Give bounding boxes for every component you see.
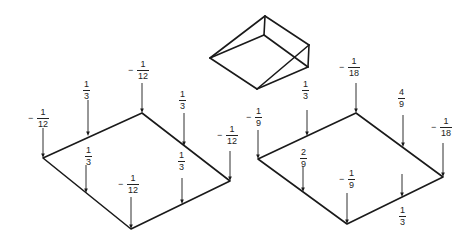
- wedge-edge: [257, 67, 308, 89]
- fraction-numerator: 1: [351, 57, 358, 66]
- minus-sign: −: [118, 180, 123, 189]
- fraction-denominator: 3: [179, 102, 186, 111]
- fraction-denominator: 3: [302, 92, 309, 101]
- wedge-edge: [308, 45, 309, 67]
- fraction-denominator: 12: [137, 72, 149, 81]
- fraction-numerator: 1: [229, 125, 236, 134]
- fraction-denominator: 3: [85, 158, 92, 167]
- fraction-numerator: 4: [398, 88, 405, 97]
- arrow-down-icon: [354, 109, 358, 114]
- fraction-denominator: 12: [37, 120, 49, 129]
- wedge-edge: [264, 16, 265, 35]
- wedge-shape: [210, 16, 309, 89]
- minus-sign: −: [217, 131, 222, 140]
- fraction-numerator: 1: [302, 80, 309, 89]
- fraction-denominator: 3: [83, 92, 90, 101]
- fraction-numerator: 1: [130, 174, 137, 183]
- minus-sign: −: [128, 66, 133, 75]
- fraction-numerator: 1: [348, 169, 355, 178]
- fraction-denominator: 18: [440, 129, 452, 138]
- wedge-edge: [210, 16, 265, 58]
- fraction-denominator: 12: [127, 186, 139, 195]
- load-arrows: [41, 83, 445, 229]
- fraction-denominator: 3: [178, 163, 185, 172]
- fraction-numerator: 1: [85, 146, 92, 155]
- fraction-numerator: 1: [179, 90, 186, 99]
- fraction-numerator: 1: [443, 117, 450, 126]
- minus-sign: −: [431, 123, 436, 132]
- left-plate-outline: [43, 113, 230, 229]
- fraction-denominator: 12: [226, 137, 238, 146]
- arrow-down-icon: [140, 109, 144, 114]
- fraction-numerator: 1: [399, 206, 406, 215]
- fraction-denominator: 18: [348, 69, 360, 78]
- fraction-denominator: 9: [255, 119, 262, 128]
- fraction-denominator: 9: [398, 100, 405, 109]
- left-plate-outline: [43, 113, 230, 229]
- minus-sign: −: [339, 175, 344, 184]
- minus-sign: −: [28, 114, 33, 123]
- fraction-numerator: 2: [300, 148, 307, 157]
- fraction-numerator: 1: [255, 107, 262, 116]
- fraction-denominator: 9: [300, 160, 307, 169]
- wedge-edge: [210, 58, 257, 89]
- minus-sign: −: [246, 113, 251, 122]
- fraction-numerator: 1: [178, 151, 185, 160]
- fraction-numerator: 1: [140, 60, 147, 69]
- fraction-denominator: 3: [399, 218, 406, 227]
- fraction-numerator: 1: [40, 108, 47, 117]
- arrow-down-icon: [86, 132, 90, 137]
- fraction-denominator: 9: [348, 181, 355, 190]
- minus-sign: −: [339, 63, 344, 72]
- fraction-numerator: 1: [83, 80, 90, 89]
- wedge-edge: [210, 35, 264, 58]
- diagram-canvas: −11213−11213−11213−11213−1913−11849−1182…: [0, 0, 475, 247]
